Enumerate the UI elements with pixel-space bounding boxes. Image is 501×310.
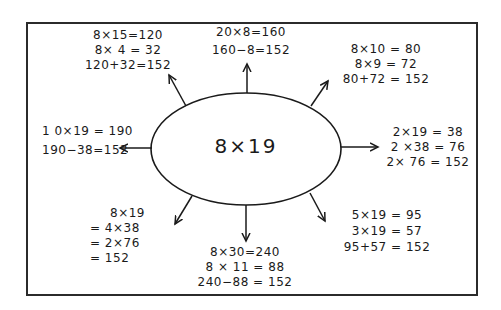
branch-line: 2×19 = 38 xyxy=(378,125,478,140)
diagram-canvas: 8×19 8×15=120 8× 4 = 32 120+32=152 20×8=… xyxy=(0,0,501,310)
branch-line: 8× 4 = 32 xyxy=(78,43,178,58)
branch-line: 8×9 = 72 xyxy=(336,57,436,72)
branch-line: = 4×38 xyxy=(90,221,160,236)
branch-line: 8×19 xyxy=(90,206,160,221)
branch-bottom-right: 5×19 = 95 3×19 = 57 95+57 = 152 xyxy=(332,207,442,255)
branch-top-right: 8×10 = 80 8×9 = 72 80+72 = 152 xyxy=(336,42,436,87)
branch-line: 240−88 = 152 xyxy=(190,275,300,290)
branch-line: = 2×76 xyxy=(90,236,160,251)
branch-line: 120+32=152 xyxy=(78,58,178,73)
branch-line: 1 0×19 = 190 xyxy=(42,122,132,141)
branch-line: 8×15=120 xyxy=(78,28,178,43)
arrow-bottom-left xyxy=(175,196,192,224)
branch-line: = 152 xyxy=(90,251,160,266)
branch-right: 2×19 = 38 2 ×38 = 76 2× 76 = 152 xyxy=(378,125,478,170)
arrow-top-right xyxy=(311,81,328,106)
branch-top: 20×8=160 160−8=152 xyxy=(206,23,296,59)
branch-line: 2× 76 = 152 xyxy=(378,155,478,170)
branch-line: 80+72 = 152 xyxy=(336,72,436,87)
branch-line: 8×30=240 xyxy=(190,245,300,260)
branch-line: 20×8=160 xyxy=(206,23,296,41)
branch-line: 8 × 11 = 88 xyxy=(190,260,300,275)
branch-line: 3×19 = 57 xyxy=(332,223,442,239)
branch-line: 5×19 = 95 xyxy=(332,207,442,223)
branch-top-left: 8×15=120 8× 4 = 32 120+32=152 xyxy=(78,28,178,73)
branch-line: 2 ×38 = 76 xyxy=(378,140,478,155)
branch-line: 190−38=152 xyxy=(42,141,132,160)
arrow-top-left xyxy=(169,75,186,106)
branch-line: 95+57 = 152 xyxy=(332,239,442,255)
branch-bottom-left: 8×19 = 4×38 = 2×76 = 152 xyxy=(90,206,160,266)
arrow-bottom-right xyxy=(310,193,325,221)
center-expression: 8×19 xyxy=(196,134,296,158)
branch-line: 160−8=152 xyxy=(206,41,296,59)
branch-left: 1 0×19 = 190 190−38=152 xyxy=(42,122,132,160)
branch-line: 8×10 = 80 xyxy=(336,42,436,57)
branch-bottom: 8×30=240 8 × 11 = 88 240−88 = 152 xyxy=(190,245,300,290)
